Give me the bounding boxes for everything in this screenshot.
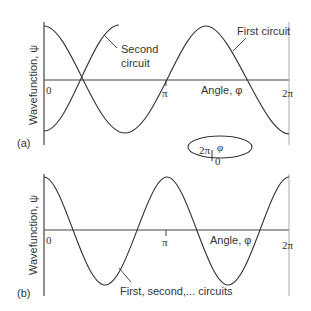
first-circuit-pointer	[233, 38, 246, 51]
second-circuit-curve	[44, 25, 119, 131]
panel-b: First, second,... circuits 0 π 2π Angle,…	[17, 174, 294, 299]
x-axis-label: Angle, φ	[210, 234, 251, 246]
tick-pi: π	[162, 87, 168, 99]
first-circuit-label: First circuit	[237, 25, 290, 37]
tick-two-pi: 2π	[282, 87, 294, 99]
wavefunction-diagram: Second circuit First circuit 0 π 2π Angl…	[0, 0, 311, 311]
second-circuit-pointer	[104, 35, 117, 48]
ring-two-pi: 2π	[199, 144, 211, 156]
ring-zero: 0	[215, 155, 221, 167]
x-axis-label: Angle, φ	[201, 84, 242, 96]
second-circuit-label-1: Second	[121, 43, 158, 55]
circuits-pointer	[119, 268, 131, 282]
ring-phi: φ	[217, 141, 223, 153]
tick-zero: 0	[46, 84, 52, 96]
tick-zero: 0	[46, 234, 52, 246]
circuits-label: First, second,... circuits	[120, 285, 233, 297]
ring-diagram: 2π φ 0	[188, 136, 252, 167]
y-axis-label: Wavefunction, ψ	[27, 195, 39, 275]
panel-a: Second circuit First circuit 0 π 2π Angl…	[17, 22, 294, 149]
tick-two-pi: 2π	[282, 239, 294, 251]
panel-label: (b)	[17, 287, 30, 299]
tick-pi: π	[162, 236, 168, 248]
panel-label: (a)	[17, 137, 30, 149]
y-axis-label: Wavefunction, ψ	[27, 45, 39, 125]
second-circuit-label-2: circuit	[121, 57, 150, 69]
